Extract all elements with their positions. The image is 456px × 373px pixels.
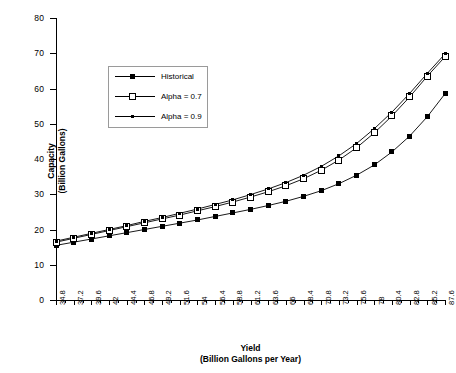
data-point-marker	[372, 162, 377, 167]
data-point-marker	[353, 144, 360, 151]
data-point-marker	[231, 198, 234, 201]
data-point-marker	[443, 91, 448, 96]
data-point-marker	[371, 129, 378, 136]
data-point-marker	[283, 199, 288, 204]
data-point-marker	[90, 232, 93, 235]
data-point-marker	[301, 194, 306, 199]
data-point-marker	[177, 221, 182, 226]
data-point-marker	[284, 181, 287, 184]
data-point-marker	[337, 154, 340, 157]
data-point-marker	[426, 72, 429, 75]
data-point-marker	[267, 187, 270, 190]
data-point-marker	[390, 111, 393, 114]
data-point-marker	[354, 173, 359, 178]
data-point-marker	[124, 230, 129, 235]
series-line-2	[56, 54, 445, 241]
data-point-marker	[178, 212, 181, 215]
data-point-marker	[319, 188, 324, 193]
data-point-marker	[195, 217, 200, 222]
data-point-marker	[142, 227, 147, 232]
data-point-marker	[408, 92, 411, 95]
data-point-marker	[335, 157, 342, 164]
data-point-marker	[355, 142, 358, 145]
data-point-marker	[336, 181, 341, 186]
data-point-marker	[214, 203, 217, 206]
data-point-marker	[230, 210, 235, 215]
data-point-marker	[425, 114, 430, 119]
data-point-marker	[160, 224, 165, 229]
data-point-marker	[72, 236, 75, 239]
data-point-marker	[407, 134, 412, 139]
data-point-marker	[143, 220, 146, 223]
data-point-marker	[213, 214, 218, 219]
data-point-marker	[55, 240, 58, 243]
data-point-marker	[108, 228, 111, 231]
data-point-marker	[249, 193, 252, 196]
data-point-marker	[302, 174, 305, 177]
data-point-marker	[444, 52, 447, 55]
data-point-marker	[266, 203, 271, 208]
data-point-marker	[320, 165, 323, 168]
data-point-marker	[248, 207, 253, 212]
data-point-marker	[196, 208, 199, 211]
data-point-marker	[389, 149, 394, 154]
data-point-marker	[125, 224, 128, 227]
data-point-marker	[161, 216, 164, 219]
series-line-1	[56, 57, 445, 242]
data-point-marker	[107, 233, 112, 238]
data-point-marker	[373, 127, 376, 130]
